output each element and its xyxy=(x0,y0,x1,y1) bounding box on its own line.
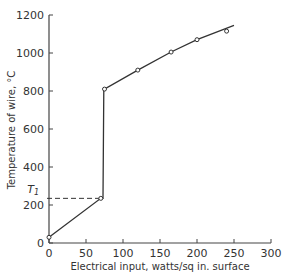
x-tick-label: 200 xyxy=(187,247,208,260)
data-point-marker xyxy=(169,50,173,54)
y-tick-label: 1200 xyxy=(16,9,44,22)
axes xyxy=(49,15,271,243)
x-tick-label: 150 xyxy=(150,247,171,260)
tick-marks xyxy=(49,15,271,243)
data-point-marker xyxy=(225,29,229,33)
data-point-marker xyxy=(136,68,140,72)
x-tick-label: 250 xyxy=(224,247,245,260)
chart: 050100150200250300 020040060080010001200… xyxy=(0,0,288,276)
data-point-marker xyxy=(99,196,103,200)
y-tick-label: 800 xyxy=(23,85,44,98)
data-series xyxy=(47,25,234,239)
y-tick-label: 1000 xyxy=(16,47,44,60)
x-tick-label: 100 xyxy=(113,247,134,260)
x-tick-label: 0 xyxy=(46,247,53,260)
series-line xyxy=(49,25,234,237)
x-tick-label: 50 xyxy=(79,247,93,260)
y-tick-label: 200 xyxy=(23,199,44,212)
data-point-marker xyxy=(195,38,199,42)
t1-annotation: T1 xyxy=(27,183,101,198)
t1-label: T1 xyxy=(27,183,39,197)
y-tick-label: 0 xyxy=(37,237,44,250)
x-axis-title: Electrical input, watts/sq in. surface xyxy=(70,261,249,272)
y-tick-label: 600 xyxy=(23,123,44,136)
y-tick-label: 400 xyxy=(23,161,44,174)
y-axis-title: Temperature of wire, °C xyxy=(6,71,17,191)
data-point-marker xyxy=(103,87,107,91)
x-tick-label: 300 xyxy=(261,247,282,260)
data-point-marker xyxy=(47,235,51,239)
x-tick-labels: 050100150200250300 xyxy=(46,247,282,260)
y-tick-labels: 020040060080010001200 xyxy=(16,9,44,250)
